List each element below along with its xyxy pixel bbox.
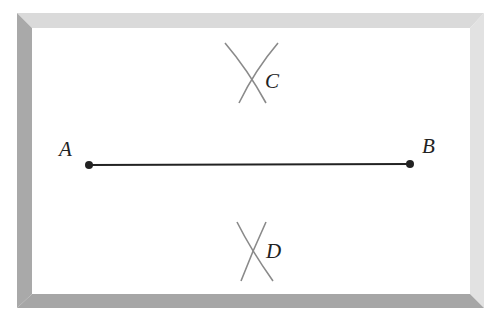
frame-left: [17, 13, 32, 308]
point-b-dot: [406, 160, 414, 168]
point-a-dot: [85, 161, 93, 169]
segment-ab: [89, 164, 410, 165]
frame-right: [470, 13, 484, 308]
picture-frame: [17, 13, 484, 308]
frame-top: [17, 13, 484, 28]
label-d: D: [265, 239, 281, 263]
construction-diagram: A B C D: [0, 0, 491, 320]
label-a: A: [57, 137, 72, 161]
label-c: C: [265, 69, 280, 93]
label-b: B: [422, 134, 435, 158]
frame-bottom: [17, 294, 484, 308]
